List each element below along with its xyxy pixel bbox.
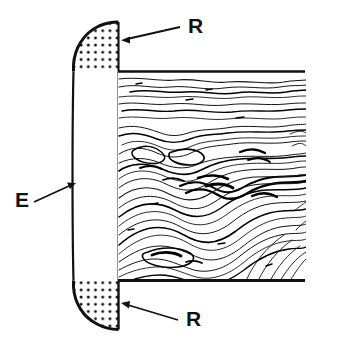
label-r-bottom: R: [186, 307, 201, 330]
figure-root: R E R: [0, 0, 339, 353]
panel-edge-diagram: R E R: [0, 0, 339, 353]
edge-face: [73, 72, 119, 281]
label-r-top: R: [188, 14, 203, 37]
grain-face: [118, 71, 306, 285]
label-e: E: [15, 188, 29, 211]
